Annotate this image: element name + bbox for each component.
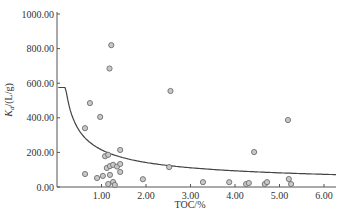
x-tick-label: 2.00 [137, 190, 155, 201]
data-point [118, 169, 123, 174]
data-point [252, 149, 257, 154]
data-point [107, 172, 112, 177]
scatter-chart: 0.00200.00400.00600.00800.001000.001.002… [0, 0, 341, 218]
data-point [87, 100, 92, 105]
data-point [118, 161, 123, 166]
x-axis-title: TOC/% [175, 199, 206, 210]
y-tick-label: 800.00 [27, 43, 55, 54]
data-point [288, 181, 293, 186]
data-point [286, 176, 291, 181]
y-tick-label: 400.00 [27, 112, 55, 123]
data-point [200, 180, 205, 185]
data-point [107, 66, 112, 71]
data-point [106, 181, 111, 186]
y-tick-label: 600.00 [27, 78, 55, 89]
y-tick-label: 1000.00 [22, 9, 55, 20]
data-point [98, 114, 103, 119]
data-point [100, 173, 105, 178]
data-point [118, 147, 123, 152]
data-point [109, 43, 114, 48]
x-tick-label: 4.00 [226, 190, 244, 201]
data-point [140, 177, 145, 182]
data-point [246, 180, 251, 185]
x-tick-label: 1.00 [93, 190, 111, 201]
y-axis-title: Kd/(L/g) [3, 83, 16, 118]
data-point [227, 180, 232, 185]
fit-curve [58, 88, 336, 175]
y-tick-label: 0.00 [37, 182, 55, 193]
data-point [106, 152, 111, 157]
data-points [82, 43, 293, 188]
x-tick-label: 5.00 [271, 190, 289, 201]
data-point [82, 171, 87, 176]
y-tick-label: 200.00 [27, 147, 55, 158]
data-point [112, 182, 117, 187]
data-point [168, 88, 173, 93]
data-point [94, 175, 99, 180]
data-point [82, 126, 87, 131]
data-point [285, 117, 290, 122]
data-point [167, 165, 172, 170]
data-point [264, 180, 269, 185]
x-tick-label: 6.00 [315, 190, 333, 201]
